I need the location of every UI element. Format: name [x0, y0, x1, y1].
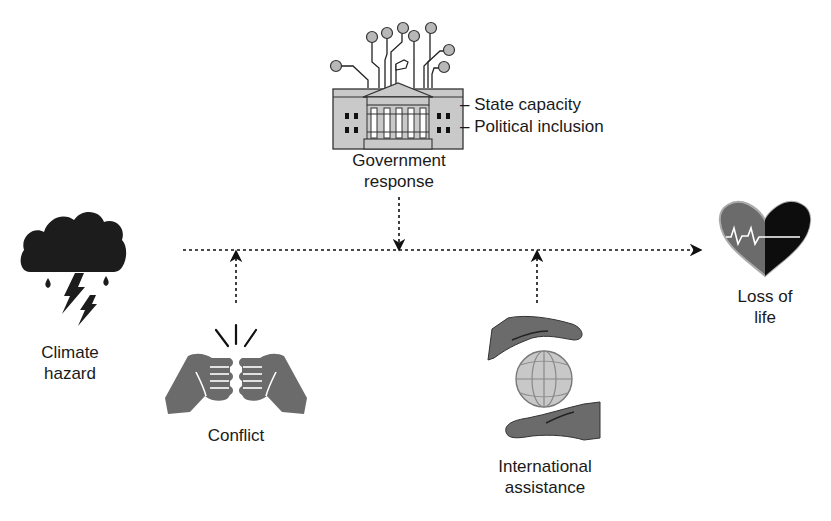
international-assistance-label: International assistance — [480, 456, 610, 498]
hands-globe-icon — [488, 316, 600, 440]
government-response-label: Government response — [340, 150, 458, 192]
government-attribute-political-inclusion: – Political inclusion — [460, 116, 604, 137]
climate-label-line1: Climate — [20, 342, 120, 363]
climate-label-line2: hazard — [20, 363, 120, 384]
loss-label-line1: Loss of — [715, 286, 815, 307]
international-label-line1: International — [480, 456, 610, 477]
heart-pulse-icon — [720, 202, 810, 276]
government-building-icon — [331, 23, 464, 150]
storm-cloud-icon — [21, 212, 127, 326]
loss-of-life-label: Loss of life — [715, 286, 815, 328]
loss-label-line2: life — [715, 307, 815, 328]
fist-bump-icon — [165, 325, 307, 414]
government-label-line2: response — [340, 171, 458, 192]
international-label-line2: assistance — [480, 477, 610, 498]
climate-hazard-label: Climate hazard — [20, 342, 120, 384]
government-label-line1: Government — [340, 150, 458, 171]
globe-icon — [516, 351, 572, 407]
government-attribute-state-capacity: – State capacity — [460, 94, 581, 115]
diagram-canvas — [0, 0, 831, 521]
conflict-label: Conflict — [186, 425, 286, 446]
